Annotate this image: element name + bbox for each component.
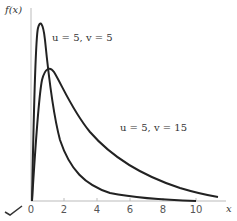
corner-mark xyxy=(5,206,22,215)
x-tick-8: 8 xyxy=(160,204,166,215)
curve-u5-v15 xyxy=(32,69,218,201)
curve-u5-v5 xyxy=(32,24,196,201)
x-tick-0: 0 xyxy=(28,204,34,215)
x-tick-6: 6 xyxy=(127,204,133,215)
curve1-annotation: u = 5, v = 5 xyxy=(52,32,113,43)
x-tick-4: 4 xyxy=(94,204,100,215)
x-tick-10: 10 xyxy=(190,204,203,215)
x-tick-2: 2 xyxy=(61,204,67,215)
x-axis-label: x xyxy=(226,203,232,214)
curve2-annotation: u = 5, v = 15 xyxy=(120,122,187,133)
chart-canvas xyxy=(0,0,237,221)
y-axis-label: f(x) xyxy=(5,4,22,15)
